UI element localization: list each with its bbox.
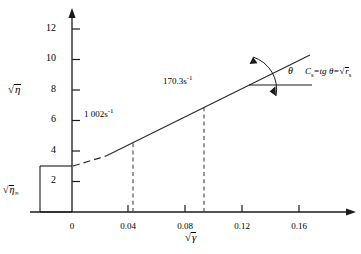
formula-r: r (344, 66, 349, 76)
chart-canvas: 12 10 8 6 4 2 0 0.04 0.08 0.12 0.16 √η √… (0, 0, 361, 254)
x-axis (30, 208, 356, 215)
radical-bar (9, 185, 15, 186)
y-axis-title: √η (8, 83, 21, 95)
y-axis-title-symbol: η (14, 83, 20, 95)
radical-r: √r (339, 66, 348, 76)
y-tick-label: 10 (36, 53, 56, 63)
x-axis-title-symbol: γ (191, 231, 196, 243)
chart-vector-layer (0, 0, 361, 254)
intercept-subscript: ∞ (14, 189, 18, 196)
shear-rate-high-exponent: -1 (108, 107, 114, 115)
shear-rate-low-exponent: -1 (187, 74, 193, 82)
intercept-bracket (40, 166, 72, 212)
radical-bar (14, 84, 21, 85)
formula-equals-tg: =tg (314, 66, 329, 76)
y-tick-label: 4 (36, 145, 56, 155)
x-tick-label: 0.12 (227, 222, 257, 231)
radical-eta: √η (8, 83, 21, 95)
shear-rate-label-low: 170.3s-1 (163, 75, 193, 86)
shear-rate-label-high: 1 002s-1 (84, 108, 114, 119)
y-tick-label: 2 (36, 175, 56, 185)
x-axis-ticks (128, 205, 299, 212)
formula-r-subscript: s (349, 71, 352, 78)
intercept-symbol: η (9, 184, 15, 195)
radical-eta-infinity: √η (3, 184, 14, 195)
x-tick-label: 0.16 (284, 222, 314, 231)
angle-arc (250, 57, 277, 96)
x-axis-title: √γ (185, 231, 196, 243)
intercept-label: √η∞ (3, 184, 19, 196)
y-axis-ticks (72, 29, 80, 182)
radical-bar (345, 67, 349, 68)
x-tick-label: 0.04 (113, 222, 143, 231)
regression-line (106, 55, 310, 156)
x-tick-label: 0.08 (170, 222, 200, 231)
y-tick-label: 8 (36, 84, 56, 94)
angle-theta-label: θ (288, 66, 293, 76)
radical-bar (191, 232, 197, 233)
x-tick-label: 0 (57, 222, 87, 231)
slope-formula: Cs=tg θ=√rs (305, 66, 351, 78)
y-tick-label: 12 (36, 23, 56, 33)
radical-gamma: √γ (185, 231, 196, 243)
shear-rate-low-value: 170.3s (163, 76, 187, 86)
shear-rate-high-value: 1 002s (84, 109, 108, 119)
y-tick-label: 6 (36, 114, 56, 124)
regression-line-extrapolation (73, 156, 106, 166)
